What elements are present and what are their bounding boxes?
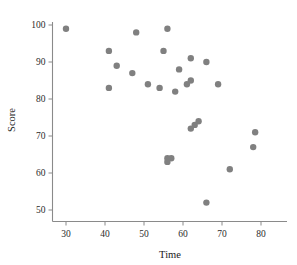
data-points-group — [63, 26, 259, 206]
data-point — [160, 48, 166, 54]
y-tick-label: 90 — [36, 57, 46, 67]
data-point — [195, 118, 201, 124]
y-tick-label: 60 — [36, 168, 46, 178]
x-tick-label: 30 — [61, 229, 71, 239]
data-point — [252, 129, 258, 135]
data-point — [250, 144, 256, 150]
y-axis-title: Score — [6, 108, 17, 132]
plot-canvas: 304050607080 5060708090100 Time Score — [0, 0, 297, 265]
y-tick-label: 70 — [36, 131, 46, 141]
data-point — [215, 81, 221, 87]
data-point — [203, 199, 209, 205]
data-point — [203, 59, 209, 65]
x-tick-label: 60 — [178, 229, 188, 239]
y-tick-label: 50 — [36, 205, 46, 215]
x-tick-label: 40 — [100, 229, 110, 239]
data-point — [176, 66, 182, 72]
x-tick-label: 70 — [217, 229, 227, 239]
data-point — [227, 166, 233, 172]
x-axis-title: Time — [159, 249, 181, 260]
data-point — [106, 85, 112, 91]
data-point — [63, 26, 69, 32]
data-point — [106, 48, 112, 54]
scatter-plot-figure: 304050607080 5060708090100 Time Score — [0, 0, 297, 265]
y-axis-ticks: 5060708090100 — [31, 20, 52, 215]
x-axis-ticks: 304050607080 — [61, 222, 266, 239]
data-point — [114, 62, 120, 68]
data-point — [156, 85, 162, 91]
data-point — [133, 29, 139, 35]
data-point — [145, 81, 151, 87]
y-tick-label: 100 — [31, 20, 46, 30]
data-point — [164, 26, 170, 32]
data-point — [188, 77, 194, 83]
data-point — [168, 155, 174, 161]
x-tick-label: 50 — [139, 229, 149, 239]
y-tick-label: 80 — [36, 94, 46, 104]
data-point — [188, 55, 194, 61]
data-point — [129, 70, 135, 76]
data-point — [172, 88, 178, 94]
x-tick-label: 80 — [256, 229, 266, 239]
axes-group — [53, 22, 288, 222]
